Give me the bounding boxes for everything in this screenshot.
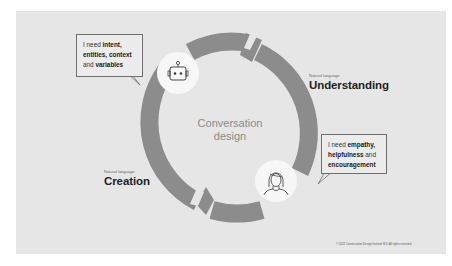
person-icon — [255, 160, 297, 202]
speech-bubble-bot: I need intent, entities, context and var… — [76, 34, 143, 77]
person-icon-circle — [255, 160, 297, 202]
stage-creation: Natural language Creation — [104, 169, 150, 188]
ring-segment-right — [258, 52, 309, 172]
speech-bubble-user: I need empathy, helpfulness and encourag… — [321, 134, 387, 174]
stage-title: Creation — [104, 175, 150, 188]
ring-segment-top — [190, 42, 248, 52]
stage-understanding: Natural language Understanding — [309, 73, 389, 92]
center-label: Conversation design — [180, 117, 280, 143]
robot-icon — [157, 52, 199, 94]
copyright-notice: © 2022 Conversation Design Institute B.V… — [336, 242, 411, 246]
robot-icon-circle — [157, 52, 199, 94]
stage-title: Understanding — [309, 79, 389, 92]
ring-segment-bottom — [212, 210, 262, 214]
